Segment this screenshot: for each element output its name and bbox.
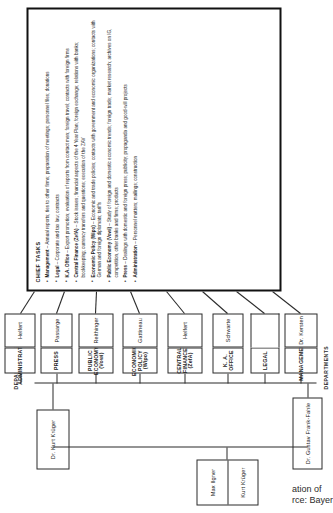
task-item-public-economy: Public Economy (Vowi) – Study of foreign… (106, 16, 119, 282)
head-box-public-economy: Reithinger (78, 313, 113, 347)
task-text-management: Annual reports; ties to other firms; pre… (44, 71, 49, 244)
connector-exec-pair-out (226, 447, 227, 459)
dept-title-legal: LEGAL (262, 351, 268, 370)
task-text-legal: Corporate and tax law; contracts (54, 194, 59, 260)
departments-label-bottom: DEPARTMENTS (322, 345, 328, 389)
dept-title-central-finance: CENTRAL FINANCE (176, 347, 188, 374)
task-item-central-finance: Central Finance (ZefA) – Stock issues; f… (73, 16, 86, 282)
chief-tasks-heading: CHIEF TASKS (34, 16, 40, 282)
dept-title-public-economy: PUBLIC ECONOMY (87, 346, 99, 375)
head-box-economic-policy: Gattineau (122, 313, 157, 347)
exec-box-dr-kurt-kruger: Dr. Kurt Krüger (36, 409, 69, 469)
exec-box-dr-gustav-frank-fahle: Dr. Gustav Frank-Fahle (292, 397, 322, 469)
task-lead-central-finance: Central Finance (ZefA) (73, 228, 78, 277)
head-box-administration: Helfert (4, 313, 35, 347)
task-lead-management: Management (44, 249, 49, 277)
connector-exec-spine (52, 446, 307, 447)
task-lead-press: Press (122, 264, 127, 277)
head-box-central-finance: Helfert (167, 313, 202, 347)
task-item-ka-office: K.A. Office – Export promotion; evaluati… (64, 16, 71, 282)
connector-dept-ka-office (227, 373, 228, 383)
connector-kruger-right (52, 383, 53, 409)
exec-name-kurt-kruger: Kurt Krüger (228, 460, 258, 504)
connector-dept-central-finance (184, 373, 185, 383)
dept-box-public-economy: PUBLIC ECONOMY (Vowi) (78, 347, 113, 373)
chief-tasks-panel: CHIEF TASKS Management – Annual reports;… (26, 7, 281, 291)
department-bus (34, 382, 316, 383)
dept-box-economic-policy: ECONOMIC POLICY (Wipo) (122, 347, 157, 373)
dept-title-ka-office: K. A. OFFICE (222, 349, 234, 371)
task-lead-economic-policy: Economic Policy (Wipo) (90, 225, 95, 277)
dept-sub-economic-policy: (Wipo) (142, 351, 148, 368)
task-text-press: Dealings with domestic and foreign press… (122, 84, 127, 260)
exec-pair-box: Max Ilgner Kurt Krüger (196, 459, 258, 505)
connector-dept-legal (264, 373, 265, 383)
task-item-administration: Administration – Personnel matters; mail… (132, 16, 139, 282)
head-box-press: Passarge (40, 313, 72, 347)
task-item-press: Press – Dealings with domestic and forei… (122, 16, 129, 282)
task-lead-ka-office: K.A. Office (64, 254, 69, 277)
task-lead-administration: Administration (132, 245, 137, 277)
dept-sub-public-economy: (Vowi) (98, 352, 104, 368)
task-lead-legal: Legal (54, 265, 59, 277)
head-box-legal (250, 313, 279, 347)
figure-caption: ation of rce: Bayer (292, 484, 333, 507)
head-box-ka-office: Schwarte (212, 313, 243, 347)
connector-dept-press (56, 373, 57, 383)
exec-name-max-ilgner: Max Ilgner (197, 460, 228, 504)
task-text-administration: Personnel matters; mailings; constructio… (132, 155, 137, 239)
dept-sub-central-finance: (ZefA) (187, 352, 193, 368)
task-item-economic-policy: Economic Policy (Wipo) – Economic and tr… (90, 16, 103, 282)
dept-box-management: MANAGEMENT (284, 347, 317, 373)
dept-box-legal: LEGAL (250, 347, 279, 373)
dept-box-ka-office: K. A. OFFICE (212, 347, 243, 373)
task-text-ka-office: Export promotion; evaluation of reports … (64, 48, 69, 249)
dept-title-economic-policy: ECONOMIC POLICY (131, 345, 143, 376)
dept-box-central-finance: CENTRAL FINANCE (ZefA) (167, 347, 202, 373)
task-lead-public-economy: Public Economy (Vowi) (106, 227, 111, 277)
dept-box-administration: ADMINISTRATION (4, 347, 35, 373)
dept-title-press: PRESS (53, 351, 59, 370)
connector-frankfahle-right (307, 383, 308, 397)
head-box-management: Dr. Kersten (284, 313, 317, 347)
dept-box-press: PRESS (40, 347, 72, 373)
task-item-management: Management – Annual reports; ties to oth… (44, 16, 51, 282)
org-chart-canvas: Max Ilgner Kurt Krüger Dr. Kurt Krüger D… (0, 0, 333, 513)
task-item-legal: Legal – Corporate and tax law; contracts (54, 16, 61, 282)
